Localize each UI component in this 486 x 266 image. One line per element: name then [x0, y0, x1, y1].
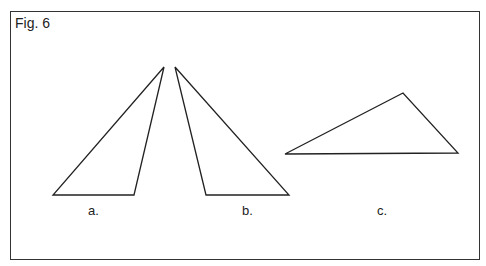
triangle-c-label: c.: [377, 203, 387, 218]
triangle-a-label: a.: [88, 203, 99, 218]
triangle-c: [285, 93, 458, 154]
triangle-b: [175, 67, 289, 195]
triangles-canvas: [0, 0, 486, 266]
triangle-a: [53, 67, 164, 195]
triangle-b-label: b.: [242, 203, 253, 218]
